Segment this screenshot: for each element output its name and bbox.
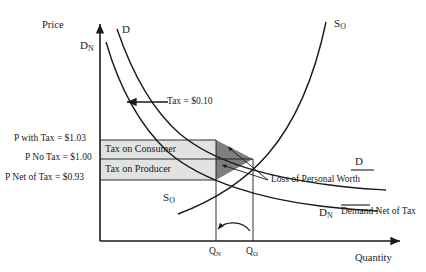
quantity-shift-arrow — [218, 223, 250, 231]
price-label-net-of-tax: P Net of Tax = $0.93 — [5, 173, 84, 183]
qn-base: Q — [209, 246, 216, 256]
so-low-subscript: O — [169, 196, 175, 205]
qo-label: QO — [246, 247, 258, 257]
demand-curve-label-right: D — [355, 156, 363, 167]
deadweight-loss-label: Loss of Personal Worth — [271, 175, 360, 185]
tax-on-consumer-label: Tax on Consumer — [105, 144, 176, 154]
y-axis-title: Price — [42, 20, 64, 31]
price-label-no-tax: P No Tax = $1.00 — [25, 153, 92, 163]
price-label-with-tax: P with Tax = $1.03 — [14, 134, 86, 144]
qn-subscript: N — [216, 250, 221, 257]
demand-net-of-tax-text: Demand Net of Tax — [341, 207, 416, 217]
so-top-subscript: O — [340, 22, 346, 31]
dn-right-base: D — [319, 206, 327, 218]
qo-subscript: O — [253, 250, 258, 257]
dn-right-subscript: N — [327, 211, 333, 220]
tax-on-producer-label: Tax on Producer — [105, 164, 171, 174]
supply-demand-tax-diagram: Price Quantity D DN SO SO D DN Demand Ne… — [0, 0, 426, 272]
supply-curve-label-top: SO — [334, 18, 346, 31]
supply-curve-label-lower: SO — [163, 192, 175, 205]
demand-curve-label-d: D — [122, 24, 130, 35]
x-axis-title: Quantity — [355, 253, 392, 264]
demand-net-curve-label-right: DN — [319, 207, 333, 220]
demand-curve-label-dn: DN — [80, 40, 94, 53]
qo-base: Q — [246, 246, 253, 256]
tax-amount-label: Tax = $0.10 — [167, 97, 213, 107]
dn-subscript: N — [88, 44, 94, 53]
supply-curve-so — [178, 22, 326, 214]
dn-base: D — [80, 39, 88, 51]
qn-label: QN — [209, 247, 221, 257]
